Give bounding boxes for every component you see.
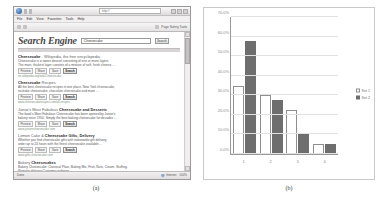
maximize-button[interactable] (177, 9, 182, 14)
bar-series-1-category-2 (260, 95, 271, 154)
gridline (231, 94, 338, 95)
legend-swatch-series-2 (356, 95, 360, 99)
y-axis-tick-label: 20.0% (218, 107, 229, 112)
result-url: www.cheesecakerecipes.com/all-recipes (18, 100, 180, 104)
result-chip-preview[interactable]: Preview (18, 68, 33, 74)
toolbar-menu-labels[interactable]: Page Safety Tools (161, 25, 187, 30)
plot-area: 0.0%10.0%20.0%30.0%40.0%50.0%60.0%70.0% (230, 17, 338, 155)
result-title-rest: Bakery (18, 160, 31, 165)
result-snippet-line-2: bakery since 1950. Simply the best bakin… (18, 116, 180, 120)
security-zone-indicator: Internet (161, 173, 176, 178)
search-input[interactable]: Cheesecake (81, 38, 151, 44)
security-zone-label: Internet (166, 173, 176, 178)
y-axis-tick-label: 60.0% (218, 29, 229, 34)
x-axis-tick-label: 3 (284, 159, 311, 165)
browser-menubar: File Edit View Favorites Tools Help (14, 16, 190, 23)
home-icon[interactable] (23, 25, 27, 29)
chart-legend: Set 1 Set 2 (356, 88, 370, 99)
minimize-button[interactable] (171, 9, 176, 14)
gridline (231, 36, 338, 37)
bar-series-2-category-1 (245, 41, 256, 154)
y-axis-tick-label: 70.0% (218, 10, 229, 15)
menu-item-favorites[interactable]: Favorites (48, 17, 62, 22)
bar-series-2-category-3 (298, 134, 309, 154)
legend-entry-series-2: Set 2 (356, 95, 370, 99)
result-chip-search[interactable]: Search (63, 121, 77, 127)
menu-item-tools[interactable]: Tools (66, 17, 74, 22)
panel-a-browser-screenshot: http:// File Edit View Favorites Tools H… (13, 6, 191, 180)
result-snippet-line-2: order up to 24 hours with the finest che… (18, 142, 180, 146)
close-button[interactable] (183, 9, 188, 14)
menu-item-edit[interactable]: Edit (26, 17, 32, 22)
result-item: Bakery Cheesecakes Bakery Cheesecake: Cl… (18, 160, 180, 172)
address-bar-input[interactable]: http:// (99, 8, 161, 14)
x-axis-tick-label: 2 (257, 159, 284, 165)
gridline (231, 55, 338, 56)
gridline (231, 153, 338, 154)
result-item: Junior's Most Fabulous Cheesecake and De… (18, 107, 180, 131)
site-logo: Search Engine (18, 35, 77, 46)
browser-statusbar: Done Internet 100% (14, 171, 190, 179)
status-text: Done (17, 173, 24, 178)
result-item: Lemon Cake & Cheesecake Gifts, Delivery … (18, 133, 180, 157)
search-results-page: Search Engine Cheesecake Search Cheeseca… (14, 32, 184, 171)
result-url: www.juniorscheesecake.com (18, 127, 180, 131)
legend-label-series-1: Set 1 (362, 88, 370, 92)
scroll-up-arrow-icon[interactable] (185, 32, 190, 37)
header-divider (18, 48, 180, 52)
browser-window: http:// File Edit View Favorites Tools H… (13, 6, 191, 180)
browser-logo-icon (16, 8, 22, 14)
gridline (231, 114, 338, 115)
x-axis-tick-label: 1 (230, 159, 257, 165)
y-axis-tick-label: 0.0% (220, 147, 229, 152)
browser-toolbar: Page Safety Tools (14, 23, 190, 32)
y-axis-tick-label: 40.0% (218, 68, 229, 73)
chart-container: 0.0%10.0%20.0%30.0%40.0%50.0%60.0%70.0% … (203, 7, 375, 180)
caption-b: (b) (286, 184, 293, 192)
menu-item-file[interactable]: File (17, 17, 22, 22)
legend-label-series-2: Set 2 (362, 95, 370, 99)
scrollbar-thumb[interactable] (185, 38, 190, 64)
y-axis-tick-label: 30.0% (218, 88, 229, 93)
shield-icon (161, 174, 165, 178)
result-chip-search[interactable]: Search (63, 68, 77, 74)
result-item: Cheesecake Recipes All the best cheeseca… (18, 80, 180, 104)
plot-area-wrapper: 0.0%10.0%20.0%30.0%40.0%50.0%60.0%70.0% (230, 17, 338, 155)
page-scrollbar[interactable] (184, 32, 190, 171)
panel-b-chart: 0.0%10.0%20.0%30.0%40.0%50.0%60.0%70.0% … (203, 7, 375, 180)
window-controls (171, 9, 188, 14)
caption-a: (a) (93, 184, 100, 192)
browser-viewport: Search Engine Cheesecake Search Cheeseca… (14, 32, 190, 171)
zoom-level-label[interactable]: 100% (179, 173, 187, 178)
favorites-star-icon[interactable] (17, 25, 21, 29)
legend-entry-series-1: Set 1 (356, 88, 370, 92)
y-axis-tick-label: 50.0% (218, 49, 229, 54)
x-axis-tick-labels: 1234 (230, 159, 338, 165)
result-chip-save[interactable]: Save (49, 121, 60, 127)
result-url: www.gifts-cheesecake.com (18, 153, 180, 157)
result-chip-preview[interactable]: Preview (18, 121, 33, 127)
result-chip-share[interactable]: Share (35, 121, 47, 127)
result-title-keyword: Cheesecakes (31, 160, 56, 165)
legend-swatch-series-1 (356, 88, 360, 92)
gridline (231, 133, 338, 134)
menu-item-help[interactable]: Help (77, 17, 84, 22)
print-icon[interactable] (155, 25, 159, 29)
bar-series-1-category-1 (233, 86, 244, 155)
result-item: Cheesecake - Wikipedia, the free encyclo… (18, 54, 180, 78)
back-arrow-icon[interactable] (24, 9, 27, 14)
gridline (231, 75, 338, 76)
result-chip-save[interactable]: Save (49, 68, 60, 74)
result-chip-share[interactable]: Share (35, 68, 47, 74)
bar-series-1-category-3 (286, 110, 297, 154)
menu-item-view[interactable]: View (36, 17, 43, 22)
scroll-down-arrow-icon[interactable] (185, 166, 190, 171)
x-axis-tick-label: 4 (311, 159, 338, 165)
search-button[interactable]: Search (155, 38, 169, 44)
forward-arrow-icon[interactable] (29, 9, 32, 14)
gridline (231, 16, 338, 17)
search-header: Search Engine Cheesecake Search (18, 35, 180, 46)
result-chip-search[interactable]: Search (63, 147, 77, 153)
browser-titlebar: http:// (14, 7, 190, 16)
result-snippet-line-2: no-bake cheesecake, chocolate cheesecake… (18, 89, 180, 93)
